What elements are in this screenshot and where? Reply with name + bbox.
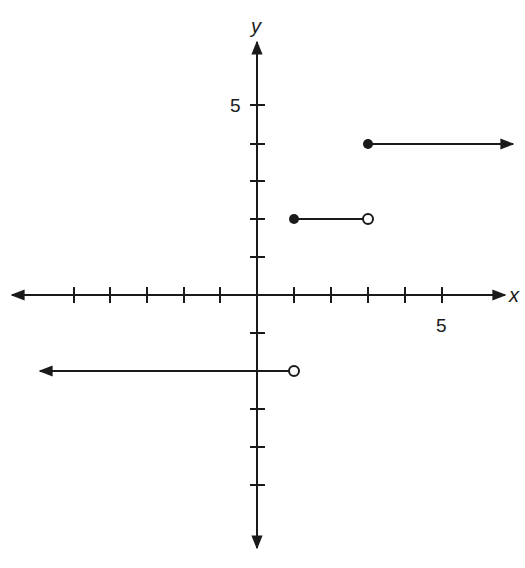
- closed-endpoint: [363, 139, 373, 149]
- segment-y-neg2: [40, 366, 299, 376]
- segment-y-2: [289, 214, 373, 224]
- step-function-graph: y x 5 5: [0, 0, 525, 568]
- segment-y-4: [363, 139, 513, 149]
- open-endpoint: [363, 214, 373, 224]
- y-tick-label-5: 5: [230, 95, 241, 116]
- x-axis-label: x: [508, 284, 520, 306]
- open-endpoint: [289, 366, 299, 376]
- x-tick-label-5: 5: [436, 315, 447, 336]
- closed-endpoint: [289, 214, 299, 224]
- y-axis-label: y: [249, 15, 262, 37]
